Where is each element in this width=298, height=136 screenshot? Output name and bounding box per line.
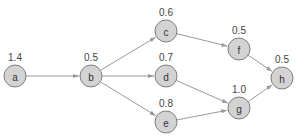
edge-f-h xyxy=(248,55,272,71)
node-d: d0.7 xyxy=(155,52,177,87)
edge-c-f xyxy=(177,34,228,46)
node-label: a xyxy=(12,72,18,83)
node-label: b xyxy=(88,72,94,83)
node-label: f xyxy=(238,45,241,56)
node-b: b0.5 xyxy=(80,52,102,87)
directed-graph: a1.4b0.5c0.6d0.7e0.8f0.5g1.0h0.5 xyxy=(0,0,298,136)
edge-b-e xyxy=(100,82,155,116)
node-weight: 0.5 xyxy=(84,52,98,63)
node-f: f0.5 xyxy=(228,25,250,60)
edge-g-h xyxy=(248,85,272,102)
edge-d-g xyxy=(176,80,228,103)
edge-e-g xyxy=(177,110,227,120)
node-weight: 0.5 xyxy=(275,54,289,65)
node-label: c xyxy=(164,27,169,38)
node-h: h0.5 xyxy=(271,54,293,89)
node-e: e0.8 xyxy=(155,98,177,133)
node-c: c0.6 xyxy=(155,7,177,42)
node-label: h xyxy=(279,74,285,85)
node-a: a1.4 xyxy=(4,52,26,87)
edge-b-c xyxy=(100,37,155,70)
node-weight: 1.4 xyxy=(8,52,22,63)
node-g: g1.0 xyxy=(228,84,250,119)
node-label: e xyxy=(163,118,169,129)
node-label: d xyxy=(163,72,169,83)
node-weight: 0.8 xyxy=(159,98,173,109)
node-weight: 0.5 xyxy=(232,25,246,36)
nodes-layer: a1.4b0.5c0.6d0.7e0.8f0.5g1.0h0.5 xyxy=(4,7,293,133)
node-label: g xyxy=(236,104,242,115)
node-weight: 0.6 xyxy=(159,7,173,18)
node-weight: 1.0 xyxy=(232,84,246,95)
node-weight: 0.7 xyxy=(159,52,173,63)
